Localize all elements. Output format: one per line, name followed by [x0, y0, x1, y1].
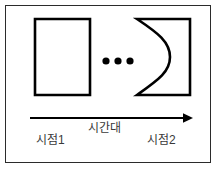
ellipsis-dot-icon — [126, 57, 133, 64]
diagram-canvas — [0, 0, 219, 173]
label-time-span: 시간대 — [88, 122, 121, 134]
ellipsis-dot-icon — [102, 57, 109, 64]
right-concave-shape — [137, 19, 190, 95]
left-rectangle-shape — [35, 19, 90, 95]
figure-root: 시점1 시간대 시점2 — [0, 0, 219, 173]
label-end-time: 시점2 — [147, 134, 176, 146]
ellipsis-dot-icon — [114, 57, 121, 64]
time-arrow-head-icon — [183, 113, 193, 123]
ellipsis-dots-group — [102, 57, 133, 64]
label-start-time: 시점1 — [36, 134, 65, 146]
